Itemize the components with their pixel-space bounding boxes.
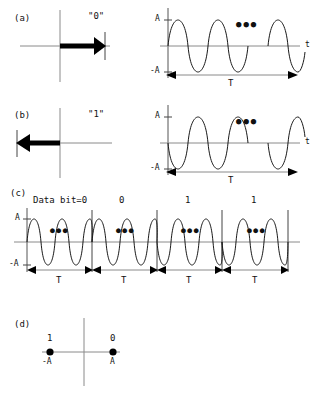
panel-b-phasor-label: "1" bbox=[88, 110, 104, 119]
panel-c-period-arrows bbox=[27, 266, 289, 274]
panel-d-point-0-bit-label: 0 bbox=[110, 334, 115, 343]
panel-c-ellipsis-4: ●●● bbox=[247, 227, 266, 235]
panel-a-period-label: T bbox=[228, 79, 233, 88]
panel-c-ellipsis-2: ●●● bbox=[116, 227, 135, 235]
panel-c-data-bit-label: Data bit=0 bbox=[33, 196, 87, 205]
panel-a-wave-axes bbox=[160, 8, 300, 78]
panel-c-neg-amp-label: -A bbox=[9, 260, 19, 268]
panel-c-tag: (c) bbox=[10, 189, 26, 198]
panel-a-amp-label: A bbox=[155, 15, 160, 23]
constellation-point-0 bbox=[109, 348, 116, 355]
panel-c-ellipsis-3: ●●● bbox=[181, 227, 200, 235]
panel-c-period-label-2: T bbox=[121, 276, 126, 285]
panel-b-phasor-arrow bbox=[16, 134, 60, 152]
panel-a-time-axis-label: t bbox=[305, 41, 310, 49]
panel-a-phasor-arrow bbox=[60, 37, 106, 55]
panel-d-point-1-amp-label: -A bbox=[42, 358, 52, 366]
panel-c-period-label-3: T bbox=[186, 276, 191, 285]
panel-b-time-axis-label: t bbox=[305, 138, 310, 146]
panel-a-neg-amp-label: -A bbox=[150, 67, 160, 75]
panel-c-period-label-1: T bbox=[56, 276, 61, 285]
panel-d-axes bbox=[42, 318, 120, 386]
panel-b-wave-axes bbox=[160, 105, 300, 175]
panel-d-point-1-bit-label: 1 bbox=[47, 334, 52, 343]
panel-a-ellipsis: ●●● bbox=[236, 20, 258, 29]
panel-b-ellipsis: ●●● bbox=[236, 117, 258, 126]
panel-d-tag: (d) bbox=[14, 320, 30, 329]
panel-b-amp-label: A bbox=[155, 112, 160, 120]
panel-c-amp-label: A bbox=[15, 214, 20, 222]
panel-c-ellipsis-1: ●●● bbox=[50, 227, 69, 235]
panel-b-neg-amp-label: -A bbox=[150, 164, 160, 172]
panel-c-bit-label-3: 1 bbox=[185, 196, 190, 205]
panel-c-bit-label-4: 1 bbox=[251, 196, 256, 205]
panel-b-tag: (b) bbox=[14, 111, 30, 120]
panel-c-bit-label-2: 0 bbox=[119, 196, 124, 205]
constellation-point-1 bbox=[46, 348, 53, 355]
panel-c-period-label-4: T bbox=[252, 276, 257, 285]
panel-d-point-0-amp-label: A bbox=[110, 358, 115, 366]
panel-b-period-label: T bbox=[228, 176, 233, 185]
